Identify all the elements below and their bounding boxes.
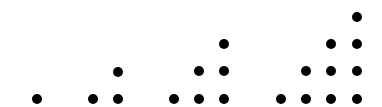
dot (219, 94, 229, 104)
dot (352, 66, 362, 76)
dot (352, 12, 362, 22)
dot (326, 94, 336, 104)
dot (326, 39, 336, 49)
dot (219, 66, 229, 76)
dot (352, 94, 362, 104)
dot (352, 39, 362, 49)
dot (301, 66, 311, 76)
dot (113, 94, 123, 104)
dot (301, 94, 311, 104)
dot (194, 94, 204, 104)
dot-pattern-diagram (0, 0, 382, 107)
dot (276, 94, 286, 104)
dot (219, 39, 229, 49)
dot (169, 94, 179, 104)
dot (194, 66, 204, 76)
dot (32, 94, 42, 104)
dot (113, 67, 123, 77)
dot (326, 66, 336, 76)
dot (88, 94, 98, 104)
